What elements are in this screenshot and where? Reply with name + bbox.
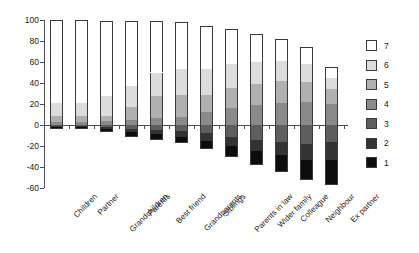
x-axis-tick	[244, 125, 245, 129]
bar-group[interactable]	[75, 20, 88, 188]
bar-segment[interactable]	[225, 146, 238, 157]
bar-segment[interactable]	[250, 140, 263, 152]
bar-group[interactable]	[125, 20, 138, 188]
bar-segment[interactable]	[125, 132, 138, 136]
bar-segment[interactable]	[275, 125, 288, 142]
bar-segment[interactable]	[225, 108, 238, 125]
bar-segment[interactable]	[150, 21, 163, 72]
legend-item[interactable]: 2	[366, 134, 389, 154]
legend-swatch	[366, 79, 377, 90]
legend-swatch	[366, 157, 377, 168]
bar-segment[interactable]	[200, 69, 213, 94]
legend-swatch	[366, 99, 377, 110]
bar-segment[interactable]	[100, 96, 113, 116]
bar-segment[interactable]	[125, 86, 138, 107]
bar-segment[interactable]	[125, 107, 138, 120]
bar-segment[interactable]	[275, 103, 288, 125]
bar-segment[interactable]	[325, 142, 338, 160]
bar-segment[interactable]	[100, 129, 113, 132]
bar-segment[interactable]	[175, 69, 188, 94]
bar-group[interactable]	[175, 20, 188, 188]
bar-segment[interactable]	[250, 62, 263, 84]
bar-segment[interactable]	[125, 21, 138, 86]
bar-group[interactable]	[100, 20, 113, 188]
bar-segment[interactable]	[275, 142, 288, 156]
x-axis-label: Best friend	[174, 192, 207, 225]
bar-segment[interactable]	[300, 47, 313, 64]
legend-item[interactable]: 3	[366, 114, 389, 134]
bar-segment[interactable]	[100, 21, 113, 96]
bar-group[interactable]	[325, 20, 338, 188]
bar-segment[interactable]	[175, 117, 188, 125]
bar-segment[interactable]	[200, 26, 213, 69]
y-axis-tick-label: 0	[34, 120, 39, 130]
bar-segment[interactable]	[225, 88, 238, 108]
bar-segment[interactable]	[300, 102, 313, 125]
bar-segment[interactable]	[325, 125, 338, 142]
bar-group[interactable]	[225, 20, 238, 188]
legend-item[interactable]: 1	[366, 153, 389, 173]
bar-segment[interactable]	[175, 95, 188, 117]
bar-segment[interactable]	[150, 96, 163, 118]
legend-label: 6	[384, 61, 389, 70]
bar-segment[interactable]	[50, 103, 63, 116]
chart-legend: 7654321	[366, 36, 389, 173]
bar-segment[interactable]	[75, 103, 88, 116]
legend-item[interactable]: 6	[366, 56, 389, 76]
bar-segment[interactable]	[300, 82, 313, 102]
x-axis-tick	[144, 125, 145, 129]
bar-group[interactable]	[275, 20, 288, 188]
bar-group[interactable]	[250, 20, 263, 188]
bar-segment[interactable]	[275, 61, 288, 81]
bar-segment[interactable]	[325, 67, 338, 78]
y-axis-tick-label: -60	[27, 183, 39, 193]
x-axis-tick	[169, 125, 170, 129]
bar-segment[interactable]	[325, 89, 338, 104]
bar-segment[interactable]	[200, 112, 213, 125]
bar-segment[interactable]	[225, 64, 238, 88]
bar-segment[interactable]	[300, 160, 313, 180]
bar-group[interactable]	[300, 20, 313, 188]
bar-segment[interactable]	[250, 105, 263, 125]
bar-segment[interactable]	[300, 144, 313, 160]
bar-segment[interactable]	[175, 22, 188, 69]
bar-segment[interactable]	[275, 39, 288, 61]
bar-segment[interactable]	[200, 125, 213, 133]
bar-segment[interactable]	[275, 155, 288, 172]
bar-segment[interactable]	[75, 127, 88, 129]
bar-segment[interactable]	[325, 104, 338, 125]
bar-segment[interactable]	[175, 137, 188, 143]
bar-segment[interactable]	[225, 125, 238, 137]
bar-segment[interactable]	[300, 64, 313, 82]
bar-segment[interactable]	[75, 20, 88, 103]
bar-segment[interactable]	[200, 133, 213, 140]
bar-segment[interactable]	[50, 127, 63, 129]
bar-segment[interactable]	[150, 73, 163, 96]
bar-segment[interactable]	[275, 81, 288, 103]
bar-segment[interactable]	[325, 78, 338, 90]
bar-group[interactable]	[150, 20, 163, 188]
bar-segment[interactable]	[50, 20, 63, 103]
x-axis-label: Children	[71, 192, 98, 219]
bar-segment[interactable]	[250, 151, 263, 165]
bar-segment[interactable]	[225, 29, 238, 64]
legend-label: 1	[384, 159, 389, 168]
bar-segment[interactable]	[150, 118, 163, 125]
bar-segment[interactable]	[200, 95, 213, 113]
y-axis-tick	[40, 188, 44, 189]
bar-segment[interactable]	[325, 160, 338, 185]
bar-segment[interactable]	[300, 125, 313, 144]
bar-segment[interactable]	[150, 134, 163, 139]
legend-item[interactable]: 5	[366, 75, 389, 95]
legend-swatch	[366, 138, 377, 149]
bar-segment[interactable]	[250, 84, 263, 105]
bar-group[interactable]	[200, 20, 213, 188]
legend-item[interactable]: 4	[366, 95, 389, 115]
bar-segment[interactable]	[250, 34, 263, 62]
bar-segment[interactable]	[250, 125, 263, 140]
legend-item[interactable]: 7	[366, 36, 389, 56]
bar-group[interactable]	[50, 20, 63, 188]
bar-segment[interactable]	[200, 141, 213, 149]
x-axis-tick	[69, 125, 70, 129]
bar-segment[interactable]	[225, 137, 238, 146]
